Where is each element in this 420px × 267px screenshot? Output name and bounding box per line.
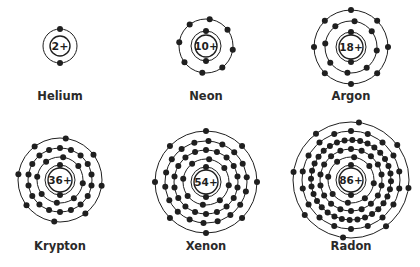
electron (25, 183, 31, 189)
electron (75, 163, 81, 169)
electron (325, 209, 331, 215)
electron (359, 206, 365, 212)
electron (226, 182, 232, 188)
electron (302, 212, 308, 218)
electron (203, 211, 209, 217)
electron (306, 153, 312, 159)
electron (239, 143, 245, 149)
electron (199, 70, 205, 76)
electron (388, 178, 394, 184)
electron (377, 150, 383, 156)
electron (68, 207, 74, 213)
electron (347, 217, 353, 223)
electron (375, 193, 381, 199)
electron (394, 142, 400, 148)
electron (322, 70, 328, 76)
electron (371, 180, 377, 186)
electron (221, 165, 227, 171)
electron (201, 220, 207, 226)
electron (167, 215, 173, 221)
electron (348, 59, 354, 65)
electron (380, 200, 386, 206)
electron (375, 162, 381, 168)
electron (57, 192, 63, 198)
electron (34, 174, 40, 180)
electron (365, 131, 371, 137)
electron (78, 202, 84, 208)
electron (351, 154, 357, 160)
electron (175, 163, 181, 169)
electron (396, 168, 402, 174)
atom-argon: 18+ (311, 7, 391, 87)
atom-krypton: 36+ (15, 135, 104, 224)
electron (206, 156, 212, 162)
nucleus-charge: 36+ (48, 174, 71, 186)
nucleus-charge: 54+ (194, 176, 217, 188)
electron (182, 204, 188, 210)
electron (344, 70, 350, 76)
electron (225, 27, 231, 33)
atom-neon: 10+ (176, 16, 236, 76)
electron (32, 144, 38, 150)
electron (308, 176, 314, 182)
electron (374, 70, 380, 76)
electron (382, 156, 388, 162)
electron (345, 200, 351, 206)
electron (167, 143, 173, 149)
electron (348, 226, 354, 232)
electron (15, 171, 21, 177)
electron (63, 135, 69, 141)
electron (385, 163, 391, 169)
electron (57, 60, 63, 66)
electron (227, 212, 233, 218)
electron (348, 81, 354, 87)
electron (231, 149, 237, 155)
electron (348, 29, 354, 35)
atom-radon: 86+ (291, 120, 412, 241)
electron (217, 197, 223, 203)
electron (82, 210, 88, 216)
electron (317, 139, 323, 145)
electron (369, 28, 375, 34)
electron (203, 128, 209, 134)
electron (39, 191, 45, 197)
electron (203, 28, 209, 34)
electron (54, 200, 60, 206)
electron (368, 153, 374, 159)
electron (328, 153, 334, 159)
electron (387, 171, 393, 177)
electron (237, 202, 243, 208)
electron (383, 223, 389, 229)
electron (334, 159, 340, 165)
electron (334, 140, 340, 146)
electron (230, 47, 236, 53)
electron (387, 186, 393, 192)
electron (191, 140, 197, 146)
electron (309, 168, 315, 174)
electron (181, 59, 187, 65)
electron (331, 223, 337, 229)
electron (85, 161, 91, 167)
electron (175, 209, 181, 215)
electron (327, 60, 333, 66)
electron (203, 194, 209, 200)
electron (244, 174, 250, 180)
electron (206, 138, 212, 144)
electron (80, 180, 86, 186)
electron (306, 202, 312, 208)
electron (396, 186, 402, 192)
electron (356, 120, 362, 126)
electron (314, 198, 320, 204)
electron (348, 192, 354, 198)
electron (171, 173, 177, 179)
electron (337, 148, 343, 154)
label-xenon: Xenon (186, 239, 227, 253)
electron (231, 163, 237, 169)
electron (352, 18, 358, 24)
electron (317, 172, 323, 178)
electron (317, 215, 323, 221)
electron (366, 163, 372, 169)
electron (371, 145, 377, 151)
electron (331, 131, 337, 137)
electron (85, 193, 91, 199)
